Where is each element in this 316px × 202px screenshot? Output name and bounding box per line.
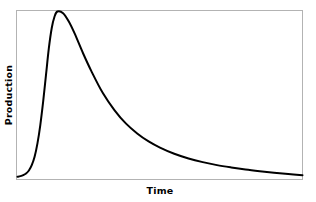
y-axis-label: Production — [4, 65, 14, 125]
chart-canvas — [0, 0, 316, 202]
plot-frame — [17, 11, 303, 180]
x-axis-label: Time — [147, 186, 174, 196]
production-curve-figure: Production Time — [0, 0, 316, 202]
